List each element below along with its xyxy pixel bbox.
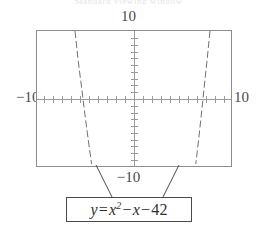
equation-term-linear: x: [133, 201, 140, 218]
equation-callout-box: y=x2−x−42: [66, 197, 192, 222]
equation-minus-second: −: [140, 201, 151, 218]
equation-constant: 42: [151, 201, 167, 218]
equation-equals: =: [98, 201, 109, 218]
equation-minus-first: −: [121, 201, 132, 218]
graphing-calculator-figure: Standard viewing window 10 −10 10 −10: [0, 0, 257, 228]
equation-lhs: y: [90, 201, 97, 218]
equation-text: y=x2−x−42: [90, 200, 167, 219]
callout-leader-lines: [0, 0, 257, 228]
